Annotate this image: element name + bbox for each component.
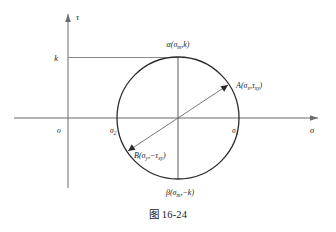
point-beta-label: β(σm,−k): [165, 188, 194, 198]
alpha-close: ): [186, 40, 190, 49]
k-tick-label: k: [54, 53, 58, 63]
point-A-label: A(σx,τxy): [235, 81, 263, 91]
figure-container: τ σ o k σ2 σ1 α(σm,k) β(σm,−k) A(σx,τxy)…: [0, 0, 336, 232]
origin-label: o: [57, 126, 61, 135]
A-close: ): [259, 81, 263, 90]
sigma2-label: σ2: [110, 126, 117, 136]
tau-axis-label: τ: [76, 12, 80, 22]
tau-axis-arrowhead: [65, 14, 71, 22]
point-B-marker: [128, 144, 136, 151]
point-A-marker: [221, 85, 229, 92]
sigma-axis-label: σ: [310, 125, 315, 135]
figure-caption: 图 16-24: [0, 206, 336, 221]
beta-close: ): [190, 188, 194, 197]
point-alpha-label: α(σm,k): [167, 40, 190, 50]
sigma-axis-arrowhead: [310, 115, 318, 121]
B-close: ): [162, 151, 166, 160]
point-B-label: B(σy,−τxy): [134, 151, 166, 161]
mohr-circle-diagram: τ σ o k σ2 σ1 α(σm,k) β(σm,−k) A(σx,τxy)…: [0, 0, 336, 232]
sigma1-subscript: 1: [236, 130, 239, 136]
sigma2-subscript: 2: [114, 130, 117, 136]
